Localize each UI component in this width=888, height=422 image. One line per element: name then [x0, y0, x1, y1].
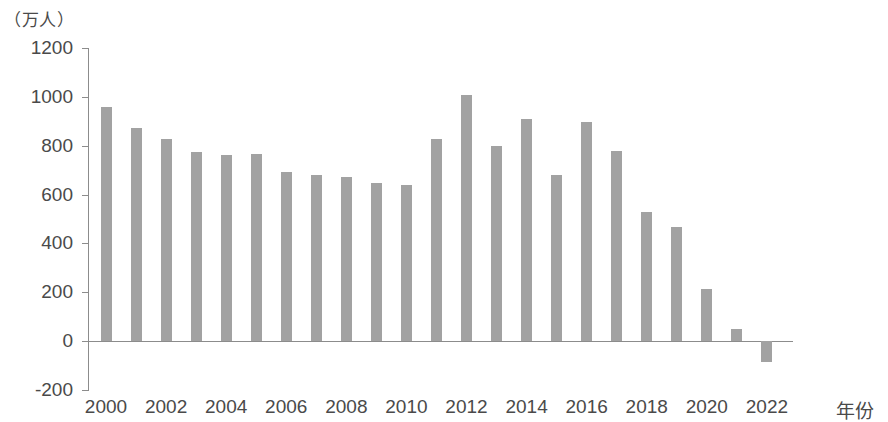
bar: [431, 139, 442, 341]
x-axis-tick-label: 2022: [746, 396, 788, 418]
bar: [611, 151, 622, 341]
bar: [671, 227, 682, 341]
bar: [281, 172, 292, 341]
bar: [191, 152, 202, 341]
x-axis-tick-label: 2018: [626, 396, 668, 418]
x-axis-tick-label: 2006: [265, 396, 307, 418]
y-axis-tick-label: 1000: [31, 86, 73, 108]
bar: [161, 139, 172, 341]
y-axis-tick-label: -200: [35, 379, 73, 401]
bar: [761, 341, 772, 362]
bar: [401, 185, 412, 342]
bar: [311, 175, 322, 341]
bar: [581, 122, 592, 341]
bar: [461, 95, 472, 341]
x-axis-tick-label: 2016: [566, 396, 608, 418]
x-axis-title: 年份: [836, 396, 874, 422]
bar: [521, 119, 532, 341]
bar-series: [88, 48, 815, 390]
x-axis-tick-label: 2002: [145, 396, 187, 418]
y-axis-tick-label: 800: [41, 135, 73, 157]
y-axis-tick: -200: [82, 390, 89, 391]
y-axis-unit-label: （万人）: [4, 6, 74, 31]
bar: [701, 289, 712, 342]
x-axis-tick-label: 2020: [686, 396, 728, 418]
bar: [641, 212, 652, 341]
bar: [491, 146, 502, 341]
bar: [131, 128, 142, 342]
y-axis-tick-label: 0: [62, 330, 73, 352]
x-axis-tick-label: 2000: [85, 396, 127, 418]
y-axis-tick-label: 400: [41, 232, 73, 254]
bar: [101, 107, 112, 341]
bar: [221, 155, 232, 341]
bar: [341, 177, 352, 341]
x-axis-tick-label: 2010: [385, 396, 427, 418]
y-axis-tick-label: 1200: [31, 37, 73, 59]
plot-area: 120010008006004002000-200: [88, 48, 815, 390]
bar: [251, 154, 262, 342]
x-axis-tick-labels: 2000200220042006200820102012201420162018…: [88, 396, 815, 422]
x-axis-tick-label: 2012: [445, 396, 487, 418]
bar: [371, 183, 382, 342]
x-axis-tick-label: 2004: [205, 396, 247, 418]
x-axis-tick-label: 2008: [325, 396, 367, 418]
bar: [731, 329, 742, 341]
x-axis-tick-label: 2014: [505, 396, 547, 418]
y-axis-tick-label: 200: [41, 281, 73, 303]
y-axis-tick-label: 600: [41, 184, 73, 206]
bar: [551, 175, 562, 341]
bar-chart: （万人） 120010008006004002000-200 200020022…: [0, 0, 888, 422]
